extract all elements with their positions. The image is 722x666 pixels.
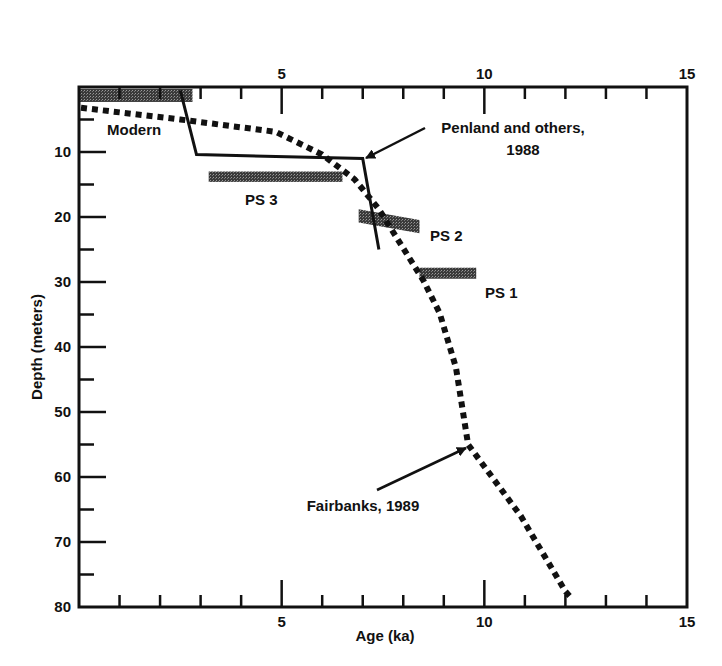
y-tick-label: 30 — [54, 273, 71, 290]
x-tick-label-bottom: 10 — [476, 613, 493, 630]
y-axis-title: Depth (meters) — [28, 294, 45, 400]
x-tick-label-top: 10 — [476, 65, 493, 82]
x-tick-label-bottom: 5 — [277, 613, 285, 630]
data-series — [81, 90, 570, 596]
x-axis-title: Age (ka) — [355, 627, 414, 644]
annotation-modern: Modern — [107, 121, 161, 138]
annotation-fairbanks: Fairbanks, 1989 — [307, 497, 420, 514]
depth-age-chart: 55101015151020304050607080 Age (ka) Dept… — [0, 0, 722, 666]
y-tick-label: 60 — [54, 468, 71, 485]
annotation-ps2: PS 2 — [430, 227, 463, 244]
annotation-ps3: PS 3 — [245, 191, 278, 208]
x-tick-label-top: 5 — [277, 65, 285, 82]
x-tick-label-bottom: 15 — [679, 613, 696, 630]
y-tick-label: 50 — [54, 403, 71, 420]
penland-arrow — [366, 128, 425, 158]
plot-axes: 55101015151020304050607080 — [54, 65, 695, 630]
annotation-penland-line2: 1988 — [506, 141, 539, 158]
x-tick-label-top: 15 — [679, 65, 696, 82]
plot-frame — [79, 87, 687, 607]
bar-modern — [79, 89, 192, 102]
y-tick-label: 20 — [54, 208, 71, 225]
annotation-ps1: PS 1 — [485, 284, 518, 301]
y-tick-label: 10 — [54, 143, 71, 160]
annotation-penland-line1: Penland and others, — [441, 119, 584, 136]
fairbanks-arrow — [377, 448, 466, 490]
y-tick-label: 70 — [54, 533, 71, 550]
penland-1988-curve — [180, 90, 379, 249]
y-tick-label: 40 — [54, 338, 71, 355]
y-tick-label: 80 — [54, 598, 71, 615]
bar-ps-1 — [419, 268, 476, 279]
bar-ps-3 — [209, 172, 343, 182]
